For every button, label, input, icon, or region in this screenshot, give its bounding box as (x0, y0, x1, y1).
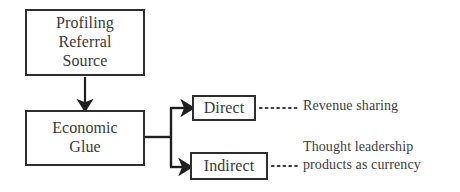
node-indirect: Indirect (190, 152, 268, 180)
node-label-economic-glue: Economic Glue (50, 119, 120, 157)
node-profiling-referral-source: Profiling Referral Source (25, 9, 145, 76)
connector-economic-glue-branch (145, 108, 172, 167)
node-label-profiling-referral-source: Profiling Referral Source (54, 14, 116, 71)
annotation-revenue-sharing: Revenue sharing (303, 97, 453, 115)
node-label-direct: Direct (202, 99, 247, 118)
flow-diagram: Profiling Referral Source Economic Glue … (0, 0, 460, 192)
node-direct: Direct (192, 95, 256, 121)
annotation-thought-leadership: Thought leadership products as currency (303, 138, 459, 174)
node-label-indirect: Indirect (202, 157, 257, 176)
node-economic-glue: Economic Glue (25, 110, 145, 166)
